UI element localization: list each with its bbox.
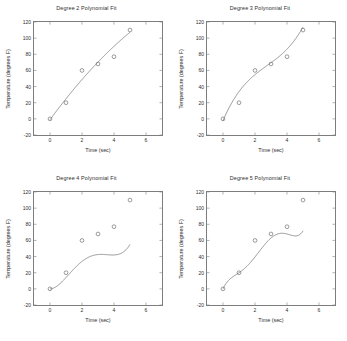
x-tick-label: 0 (222, 307, 225, 313)
x-tick-label: 2 (81, 137, 84, 143)
data-point-marker (112, 55, 116, 59)
y-tick-label: -20 (197, 132, 204, 138)
y-tick-label: 100 (23, 35, 31, 41)
y-tick-label: 20 (25, 270, 31, 276)
x-tick-label: 2 (254, 137, 257, 143)
data-point-marker (128, 28, 132, 32)
y-tick-label: -20 (24, 132, 31, 138)
y-tick-label: 120 (23, 19, 31, 25)
x-tick-label: 6 (145, 307, 148, 313)
y-tick-label: 80 (25, 221, 31, 227)
y-axis-label-text: Temperature (degrees F) (5, 219, 11, 279)
data-point-marker (128, 198, 132, 202)
y-tick-label: 20 (25, 100, 31, 106)
data-point-marker (269, 232, 273, 236)
y-axis-label-text: Temperature (degrees F) (178, 49, 184, 109)
y-tick-label: 80 (198, 221, 204, 227)
data-point-marker (64, 101, 68, 105)
y-tick-label: 20 (198, 270, 204, 276)
y-tick-label: 60 (25, 237, 31, 243)
subplot-degree-5: Degree 5 Polynomial Fit Temperature (deg… (173, 170, 347, 341)
panel-title: Degree 2 Polynomial Fit (0, 5, 173, 11)
x-axis-label: Time (sec) (206, 147, 336, 153)
y-tick-label: 120 (196, 189, 204, 195)
data-point-marker (48, 117, 52, 121)
data-point-marker (80, 69, 84, 73)
panel-title: Degree 4 Polynomial Fit (0, 175, 173, 181)
y-tick-label: 80 (25, 51, 31, 57)
data-point-marker (96, 232, 100, 236)
data-point-marker (285, 225, 289, 229)
y-tick-label: 60 (25, 67, 31, 73)
x-axis-label: Time (sec) (206, 317, 336, 323)
y-tick-label: 0 (201, 116, 204, 122)
data-point-marker (112, 225, 116, 229)
y-axis-label: Temperature (degrees F) (3, 21, 13, 136)
plot-area: -200204060801001200246 (206, 191, 336, 306)
y-tick-label: 20 (198, 100, 204, 106)
panel-title: Degree 5 Polynomial Fit (173, 175, 347, 181)
y-tick-label: 0 (28, 116, 31, 122)
y-tick-label: 120 (196, 19, 204, 25)
data-point-marker (285, 55, 289, 59)
y-tick-label: 0 (28, 286, 31, 292)
x-tick-label: 0 (222, 137, 225, 143)
x-tick-label: 0 (49, 137, 52, 143)
x-tick-label: 6 (318, 137, 321, 143)
data-point-marker (253, 69, 257, 73)
y-tick-label: -20 (197, 302, 204, 308)
y-axis-label: Temperature (degrees F) (176, 21, 186, 136)
plot-svg (207, 192, 335, 305)
y-tick-label: 100 (196, 35, 204, 41)
x-tick-label: 6 (318, 307, 321, 313)
x-tick-label: 4 (113, 137, 116, 143)
plot-area: -200204060801001200246 (33, 191, 163, 306)
y-tick-label: 80 (198, 51, 204, 57)
data-point-marker (96, 62, 100, 66)
plot-svg (207, 22, 335, 135)
y-tick-label: 120 (23, 189, 31, 195)
plot-area: -200204060801001200246 (206, 21, 336, 136)
y-tick-label: 100 (23, 205, 31, 211)
fit-curve (50, 244, 130, 288)
plot-svg (34, 22, 162, 135)
data-point-marker (237, 101, 241, 105)
fit-curve (223, 231, 303, 289)
x-tick-label: 0 (49, 307, 52, 313)
y-tick-label: 40 (198, 84, 204, 90)
y-tick-label: 60 (198, 67, 204, 73)
x-axis-label: Time (sec) (33, 317, 163, 323)
x-tick-label: 2 (81, 307, 84, 313)
x-tick-label: 4 (286, 307, 289, 313)
y-tick-label: 60 (198, 237, 204, 243)
subplot-degree-2: Degree 2 Polynomial Fit Temperature (deg… (0, 0, 173, 170)
x-tick-label: 4 (286, 137, 289, 143)
y-tick-label: 40 (25, 84, 31, 90)
data-point-marker (253, 239, 257, 243)
fit-curve (223, 27, 303, 121)
y-axis-label: Temperature (degrees F) (3, 191, 13, 306)
y-tick-label: 40 (25, 254, 31, 260)
x-tick-label: 4 (113, 307, 116, 313)
fit-curve (50, 32, 130, 119)
x-tick-label: 6 (145, 137, 148, 143)
x-axis-label: Time (sec) (33, 147, 163, 153)
y-tick-label: 40 (198, 254, 204, 260)
y-tick-label: 100 (196, 205, 204, 211)
y-axis-label: Temperature (degrees F) (176, 191, 186, 306)
x-tick-label: 2 (254, 307, 257, 313)
y-tick-label: 0 (201, 286, 204, 292)
plot-area: -200204060801001200246 (33, 21, 163, 136)
panel-title: Degree 3 Polynomial Fit (173, 5, 347, 11)
plot-svg (34, 192, 162, 305)
subplot-degree-4: Degree 4 Polynomial Fit Temperature (deg… (0, 170, 173, 341)
y-axis-label-text: Temperature (degrees F) (5, 49, 11, 109)
data-point-marker (80, 239, 84, 243)
subplot-degree-3: Degree 3 Polynomial Fit Temperature (deg… (173, 0, 347, 170)
y-axis-label-text: Temperature (degrees F) (178, 219, 184, 279)
polynomial-fit-figure: Degree 2 Polynomial Fit Temperature (deg… (0, 0, 347, 341)
data-point-marker (301, 198, 305, 202)
y-tick-label: -20 (24, 302, 31, 308)
data-point-marker (64, 271, 68, 275)
